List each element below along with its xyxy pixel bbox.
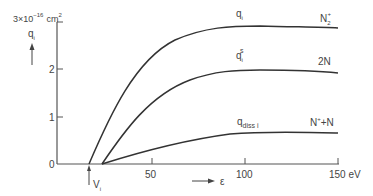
label-q-i: qi — [236, 8, 243, 21]
y-arrow-head-icon — [30, 43, 35, 50]
vi-label: Vi — [93, 179, 101, 192]
x-tick-label-100: 100 — [236, 169, 253, 180]
label-n-plus-n: N++N — [310, 116, 334, 128]
y-tick-label-1: 1 — [49, 112, 55, 123]
curve-q-i — [89, 26, 338, 164]
y-tick-label-0: 0 — [49, 159, 55, 170]
label-2n: 2N — [318, 56, 331, 67]
x-arrow-head-icon — [208, 179, 215, 184]
curve-q-i-s — [102, 70, 338, 164]
x-tick-label-50: 50 — [145, 169, 157, 180]
x-tick-label-150: 150 eV — [329, 169, 361, 180]
label-q-i-s: qis — [236, 47, 244, 63]
vi-arrow-head-icon — [87, 165, 91, 171]
label-q-diss-i: qdiss i — [237, 116, 259, 129]
y-unit-label: 3×10−16cm2 — [13, 12, 62, 24]
y-tick-label-2: 2 — [49, 64, 55, 75]
label-n2-plus: N2+ — [320, 11, 332, 26]
cross-section-chart: 3×10−16cm2 qi 2 1 0 50 100 150 eV ε Vi q… — [0, 0, 373, 196]
y-axis-label: qi — [28, 28, 35, 41]
x-axis-label: ε — [220, 176, 225, 187]
curve-q-diss-i — [102, 132, 338, 164]
